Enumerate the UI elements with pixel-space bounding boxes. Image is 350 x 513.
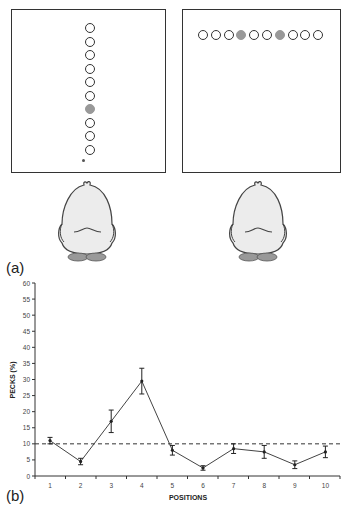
x-tick-label: 4 — [140, 482, 144, 489]
stimulus-disk — [300, 30, 310, 40]
y-tick-label: 40 — [23, 344, 31, 351]
y-tick-label: 55 — [23, 296, 31, 303]
y-tick-label: 60 — [23, 280, 31, 287]
x-tick-label: 2 — [79, 482, 83, 489]
y-tick-label: 30 — [23, 376, 31, 383]
y-tick-label: 5 — [26, 456, 30, 463]
y-tick-label: 50 — [23, 312, 31, 319]
stimulus-disk — [85, 145, 95, 155]
stimulus-disk — [249, 30, 259, 40]
x-tick-label: 3 — [109, 482, 113, 489]
stimulus-disk — [224, 30, 234, 40]
panel-label-b: (b) — [6, 487, 24, 504]
y-tick-label: 0 — [26, 473, 30, 480]
stimulus-disk — [85, 37, 95, 47]
stimulus-disk — [288, 30, 298, 40]
stimulus-disk — [313, 30, 323, 40]
stimulus-disk — [85, 64, 95, 74]
y-tick-label: 15 — [23, 424, 31, 431]
stimulus-disk — [262, 30, 272, 40]
data-point — [232, 447, 235, 450]
data-point — [140, 380, 143, 383]
data-point — [201, 466, 204, 469]
data-point — [171, 449, 174, 452]
x-tick-label: 9 — [293, 482, 297, 489]
data-series — [48, 368, 328, 470]
y-tick-label: 45 — [23, 328, 31, 335]
fixation-dot — [82, 159, 85, 162]
x-tick-label: 7 — [232, 482, 236, 489]
stimulus-disk — [85, 91, 95, 101]
x-tick-label: 1 — [48, 482, 52, 489]
stimulus-disk — [85, 131, 95, 141]
stimulus-disk — [236, 30, 246, 40]
stimulus-disk — [85, 118, 95, 128]
data-point — [79, 460, 82, 463]
stimulus-panel-horizontal — [182, 9, 341, 173]
stimulus-disk — [85, 23, 95, 33]
y-axis-label: PECKS (%) — [9, 362, 17, 399]
x-tick-label: 8 — [262, 482, 266, 489]
x-axis: 12345678910 — [35, 476, 340, 489]
stimulus-disk — [275, 30, 285, 40]
x-tick-label: 5 — [171, 482, 175, 489]
x-tick-label: 6 — [201, 482, 205, 489]
stimulus-disk — [85, 50, 95, 60]
data-point — [324, 450, 327, 453]
y-tick-label: 10 — [23, 440, 31, 447]
stimulus-disk — [211, 30, 221, 40]
y-tick-label: 20 — [23, 408, 31, 415]
panel-label-a: (a) — [6, 259, 24, 276]
y-axis: 051015202530354045505560 — [23, 280, 35, 480]
y-tick-label: 25 — [23, 392, 31, 399]
chick-illustration-right — [221, 180, 296, 262]
x-axis-label: POSITIONS — [169, 494, 207, 501]
data-point — [48, 439, 51, 442]
x-tick-label: 10 — [322, 482, 330, 489]
stimulus-disk — [85, 104, 95, 114]
stimulus-disk — [198, 30, 208, 40]
chick-illustration-left — [50, 180, 125, 262]
data-point — [263, 450, 266, 453]
stimulus-disk — [85, 77, 95, 87]
data-point — [293, 463, 296, 466]
y-tick-label: 35 — [23, 360, 31, 367]
data-point — [110, 420, 113, 423]
stimulus-panel-vertical — [11, 9, 166, 173]
